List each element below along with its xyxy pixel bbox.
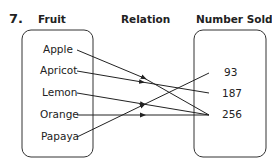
domain-item-lemon: Lemon — [42, 86, 77, 98]
domain-item-papaya: Papaya — [41, 130, 79, 142]
arrow-apricot — [77, 71, 209, 93]
domain-item-apricot: Apricot — [40, 64, 77, 76]
range-item-256: 256 — [222, 108, 242, 120]
domain-item-apple: Apple — [43, 43, 73, 55]
domain-item-orange: Orange — [40, 108, 79, 120]
range-item-93: 93 — [224, 66, 237, 78]
range-item-187: 187 — [222, 87, 242, 99]
